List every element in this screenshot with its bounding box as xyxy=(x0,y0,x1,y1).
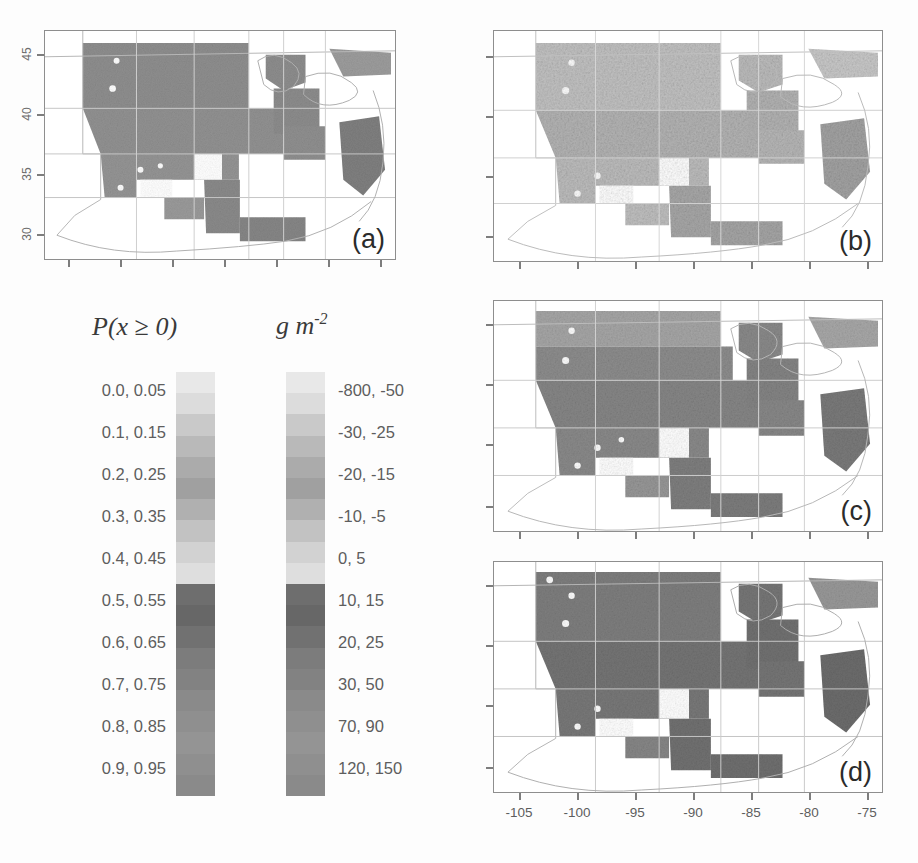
cb-mass-label-2: -30, -25 xyxy=(338,423,395,442)
figure-root: (a) 45 40 35 30 xyxy=(0,0,918,863)
x-tick-d-6 xyxy=(809,793,811,800)
y-tick-d-30 xyxy=(486,767,493,769)
y-tick-d-45 xyxy=(486,585,493,587)
x-tick-c-2 xyxy=(577,532,579,539)
map-panel-b[interactable]: (b) xyxy=(493,30,883,262)
x-tick-c-7 xyxy=(867,532,869,539)
x-tick-d-4 xyxy=(693,793,695,800)
y-tick-b-45 xyxy=(486,56,493,58)
x-axis-label-4: -90 xyxy=(670,805,716,820)
cb-prob-label-5: 0.4, 0.45 xyxy=(20,549,166,568)
x-tick-d-2 xyxy=(577,793,579,800)
map-graphic-d xyxy=(494,562,882,792)
map-frame-c: (c) xyxy=(493,300,883,532)
y-tick-b-30 xyxy=(486,236,493,238)
cb-mass-label-5: 0, 5 xyxy=(338,549,366,568)
x-tick-b-7 xyxy=(867,262,869,269)
x-axis-label-3: -95 xyxy=(612,805,658,820)
x-tick-d-1 xyxy=(519,793,521,800)
cb-mass-label-7: 20, 25 xyxy=(338,633,384,652)
x-tick-d-5 xyxy=(751,793,753,800)
x-axis-label-1: -105 xyxy=(496,805,542,820)
x-tick-b-2 xyxy=(577,262,579,269)
map-graphic-b xyxy=(494,31,882,261)
cb-mass-label-9: 70, 90 xyxy=(338,717,384,736)
x-tick-b-5 xyxy=(751,262,753,269)
x-tick-b-1 xyxy=(519,262,521,269)
panel-label-b: (b) xyxy=(839,226,872,257)
x-axis-label-2: -100 xyxy=(554,805,600,820)
cb-prob-label-8: 0.7, 0.75 xyxy=(20,675,166,694)
cb-mass-label-1: -800, -50 xyxy=(338,381,404,400)
y-tick-c-35 xyxy=(486,444,493,446)
y-tick-b-35 xyxy=(486,176,493,178)
x-tick-b-3 xyxy=(635,262,637,269)
x-tick-d-7 xyxy=(867,793,869,800)
panel-label-c: (c) xyxy=(841,496,872,527)
cb-mass-label-4: -10, -5 xyxy=(338,507,386,526)
x-tick-b-4 xyxy=(693,262,695,269)
map-frame-b: (b) xyxy=(493,30,883,262)
x-tick-d-3 xyxy=(635,793,637,800)
cb-mass-label-8: 30, 50 xyxy=(338,675,384,694)
y-tick-c-45 xyxy=(486,324,493,326)
cb-prob-label-4: 0.3, 0.35 xyxy=(20,507,166,526)
cb-mass-label-10: 120, 150 xyxy=(338,759,402,778)
cb-prob-label-7: 0.6, 0.65 xyxy=(20,633,166,652)
y-tick-c-30 xyxy=(486,506,493,508)
y-tick-d-35 xyxy=(486,705,493,707)
x-tick-c-6 xyxy=(809,532,811,539)
cb-prob-label-6: 0.5, 0.55 xyxy=(20,591,166,610)
x-tick-c-3 xyxy=(635,532,637,539)
panel-label-a: (a) xyxy=(352,224,385,255)
cb-prob-label-10: 0.9, 0.95 xyxy=(20,759,166,778)
mass-legend-title: g m-2 xyxy=(276,310,328,341)
y-tick-c-40 xyxy=(486,384,493,386)
mass-colorbar[interactable] xyxy=(286,372,325,796)
x-tick-c-1 xyxy=(519,532,521,539)
x-axis-label-6: -80 xyxy=(786,805,832,820)
x-axis-label-7: -75 xyxy=(844,805,890,820)
x-axis-label-5: -85 xyxy=(728,805,774,820)
y-tick-b-40 xyxy=(486,116,493,118)
x-tick-c-4 xyxy=(693,532,695,539)
cb-mass-label-3: -20, -15 xyxy=(338,465,395,484)
map-graphic-c xyxy=(494,301,882,531)
panel-label-d: (d) xyxy=(839,757,872,788)
y-tick-d-40 xyxy=(486,645,493,647)
cb-mass-label-6: 10, 15 xyxy=(338,591,384,610)
x-tick-c-5 xyxy=(751,532,753,539)
map-frame-d: (d) xyxy=(493,561,883,793)
map-panel-d[interactable]: (d) -105 -100 -95 -90 -85 -80 -75 xyxy=(493,561,883,793)
map-panel-c[interactable]: (c) xyxy=(493,300,883,532)
cb-prob-label-9: 0.8, 0.85 xyxy=(20,717,166,736)
x-tick-b-6 xyxy=(809,262,811,269)
